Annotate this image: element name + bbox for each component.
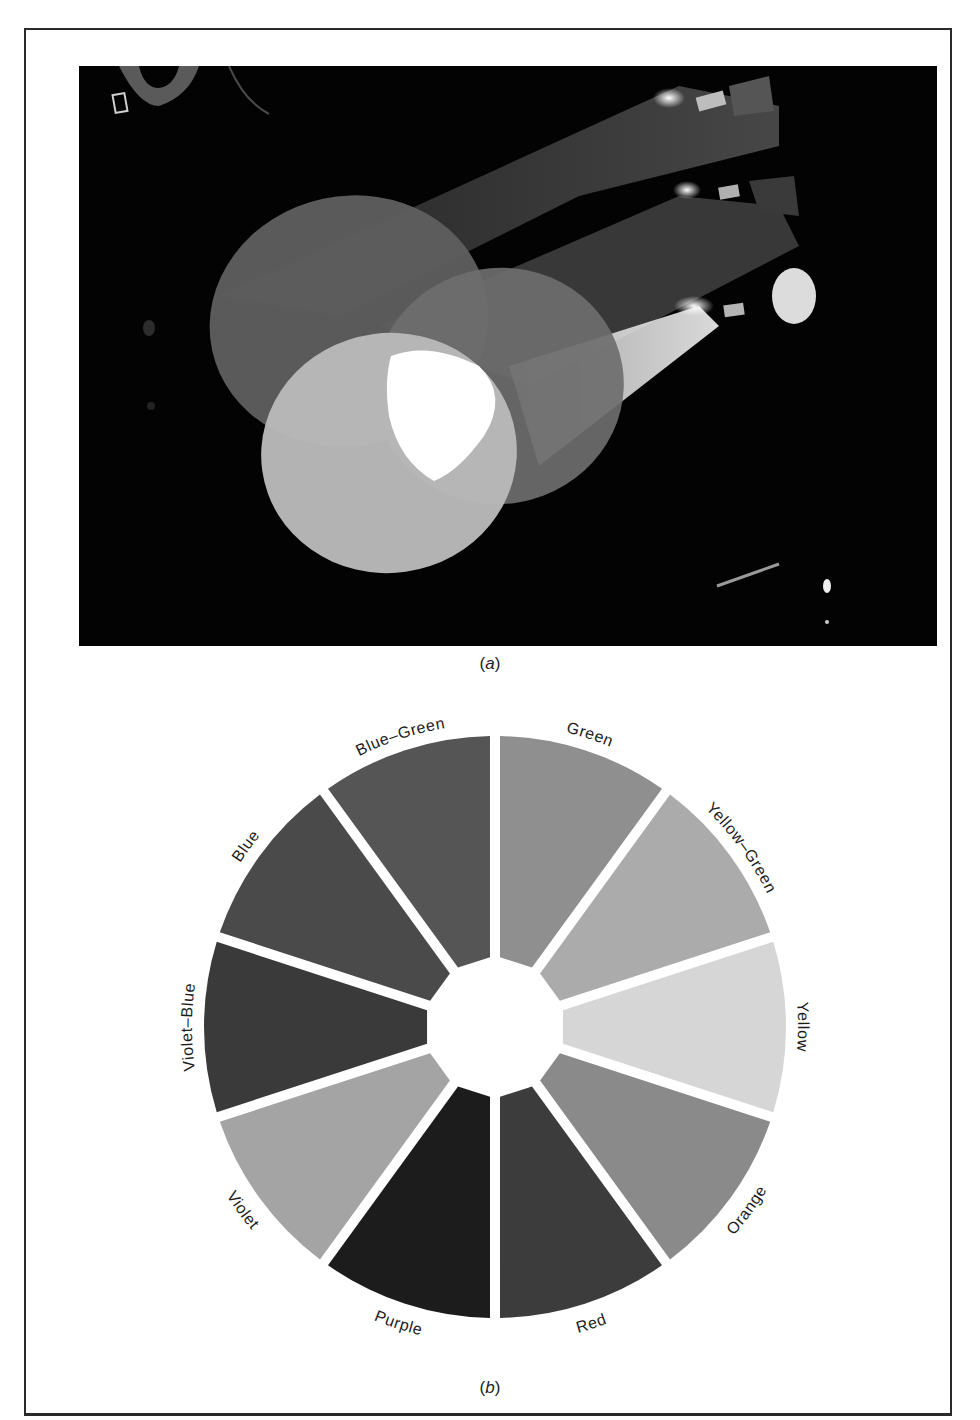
caption-a-letter: a [485, 654, 494, 673]
wheel-label: Yellow [794, 1001, 812, 1052]
caption-a-close: ) [495, 654, 501, 673]
wheel-label: Green [565, 719, 616, 750]
spotlight-photo [79, 66, 937, 646]
wheel-label: Purple [373, 1307, 425, 1338]
caption-b-close: ) [495, 1378, 501, 1397]
caption-b-letter: b [485, 1378, 494, 1397]
caption-a: (a) [0, 654, 980, 674]
wheel-center-hole [429, 961, 561, 1093]
caption-b: (b) [0, 1378, 980, 1398]
spotlight-photo-image [79, 66, 937, 646]
wheel-label: Violet–Blue [178, 982, 198, 1073]
wheel-label: Red [574, 1310, 609, 1336]
color-wheel-graphic: GreenYellow–GreenYellowOrangeRedPurpleVi… [170, 700, 820, 1350]
wheel-label: Violet [224, 1188, 263, 1233]
color-wheel: GreenYellow–GreenYellowOrangeRedPurpleVi… [170, 700, 820, 1350]
